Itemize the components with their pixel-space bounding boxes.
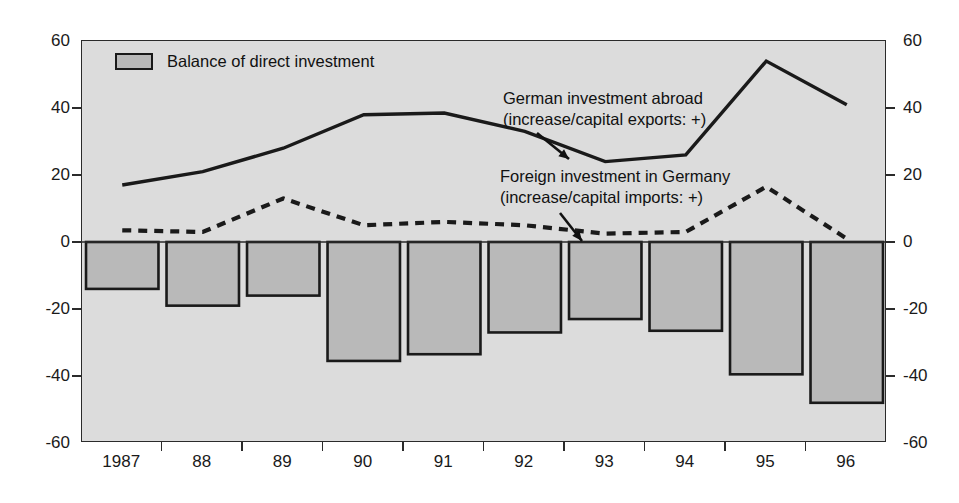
x-axis-label-89: 89 (242, 452, 322, 472)
bar-96 (811, 242, 883, 403)
chart-figure: 60 40 20 0 -20 -40 -60 60 40 20 0 -20 -4… (0, 0, 959, 503)
legend: Balance of direct investment (115, 52, 374, 71)
x-axis-tick-3 (322, 442, 324, 451)
y-axis-right-tick-40 (886, 107, 895, 109)
annotation-german-investment-abroad-line1: German investment abroad (503, 88, 706, 109)
y-axis-right-tick-20 (886, 174, 895, 176)
bar-1987 (86, 242, 158, 289)
bar-91 (408, 242, 480, 354)
bars-group (86, 242, 883, 403)
x-axis-label-1987: 1987 (81, 452, 161, 472)
plot-svg (82, 41, 887, 443)
y-axis-left-label-n20: -20 (8, 299, 70, 319)
line-foreign-investment-in-germany (122, 187, 847, 239)
annotation-foreign-investment-in-germany-line1: Foreign investment in Germany (500, 166, 730, 187)
y-axis-left-tick-0 (72, 241, 81, 243)
bar-90 (328, 242, 400, 361)
y-axis-right-label-40: 40 (903, 98, 959, 118)
y-axis-right-tick-n20 (886, 308, 895, 310)
y-axis-left-label-40: 40 (8, 98, 70, 118)
x-axis-label-90: 90 (323, 452, 403, 472)
y-axis-right-label-n60: -60 (903, 433, 959, 453)
bar-93 (569, 242, 641, 319)
y-axis-left-tick-40 (72, 107, 81, 109)
plot-area (81, 40, 886, 442)
bar-92 (489, 242, 561, 332)
x-axis-label-94: 94 (645, 452, 725, 472)
annotation-foreign-investment-in-germany-line2: (increase/capital imports: +) (500, 187, 730, 208)
x-axis-tick-1 (161, 442, 163, 451)
y-axis-left-label-0: 0 (8, 232, 70, 252)
arrow-foreign-investment-in-germany (560, 213, 582, 241)
bar-88 (167, 242, 239, 306)
x-axis-label-92: 92 (484, 452, 564, 472)
y-axis-right-label-60: 60 (903, 31, 959, 51)
annotation-german-investment-abroad: German investment abroad (increase/capit… (503, 88, 706, 130)
y-axis-right-label-n20: -20 (903, 299, 959, 319)
x-axis-label-88: 88 (162, 452, 242, 472)
x-axis-tick-7 (644, 442, 646, 451)
x-axis-label-93: 93 (564, 452, 644, 472)
y-axis-left-label-60: 60 (8, 31, 70, 51)
x-axis-tick-6 (563, 442, 565, 451)
y-axis-left-label-n60: -60 (8, 433, 70, 453)
x-axis-tick-9 (805, 442, 807, 451)
annotation-german-investment-abroad-line2: (increase/capital exports: +) (503, 109, 706, 130)
x-axis-tick-2 (241, 442, 243, 451)
y-axis-left-tick-n40 (72, 375, 81, 377)
x-axis-label-95: 95 (725, 452, 805, 472)
annotation-foreign-investment-in-germany: Foreign investment in Germany (increase/… (500, 166, 730, 208)
legend-label-balance-of-direct-investment: Balance of direct investment (167, 52, 374, 71)
x-axis-label-96: 96 (806, 452, 886, 472)
y-axis-left-tick-20 (72, 174, 81, 176)
y-axis-right-label-0: 0 (903, 232, 959, 252)
bar-95 (730, 242, 802, 374)
y-axis-right-tick-n40 (886, 375, 895, 377)
y-axis-left-tick-n20 (72, 308, 81, 310)
y-axis-right-label-n40: -40 (903, 366, 959, 386)
y-axis-left-label-n40: -40 (8, 366, 70, 386)
x-axis-tick-8 (724, 442, 726, 451)
lines-group (122, 61, 847, 239)
y-axis-right-label-20: 20 (903, 165, 959, 185)
bar-94 (650, 242, 722, 331)
y-axis-left-label-20: 20 (8, 165, 70, 185)
x-axis-tick-4 (402, 442, 404, 451)
y-axis-right-tick-0 (886, 241, 895, 243)
x-axis-label-91: 91 (403, 452, 483, 472)
bar-89 (247, 242, 319, 296)
line-german-investment-abroad (122, 61, 847, 185)
legend-swatch-balance-of-direct-investment (115, 53, 153, 70)
x-axis-tick-5 (483, 442, 485, 451)
